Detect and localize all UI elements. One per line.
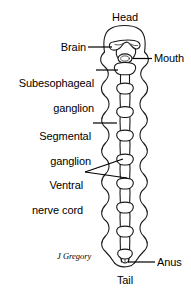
label-ventral-line1: Ventral <box>49 179 83 191</box>
label-segmental-line2: ganglion <box>50 155 91 167</box>
segmental-ganglion <box>117 130 134 141</box>
circumesophageal-connective-right <box>133 49 136 58</box>
label-ventral-nerve-cord: Ventral nerve cord <box>2 166 83 229</box>
label-subesophageal-line1: Subesophageal <box>19 77 94 89</box>
label-head: Head <box>95 11 155 24</box>
anatomy-diagram: Head Brain Mouth Subesophageal ganglion … <box>0 0 191 300</box>
label-subesophageal-line2: ganglion <box>53 102 94 114</box>
body-right-margin <box>135 52 149 263</box>
label-mouth: Mouth <box>154 52 191 65</box>
artist-signature: J Gregory <box>57 251 91 261</box>
segmental-ganglion <box>117 202 134 213</box>
terminal-ganglion <box>118 249 133 259</box>
subesophageal-ganglion <box>114 63 135 75</box>
label-anus: Anus <box>157 256 191 269</box>
segmental-ganglion <box>117 83 134 94</box>
mouth-opening <box>118 54 132 63</box>
segmental-ganglion <box>117 226 134 237</box>
tail-outline <box>115 263 135 267</box>
label-brain: Brain <box>28 41 86 54</box>
body-left-margin <box>101 52 115 263</box>
label-segmental-line1: Segmental <box>39 130 91 142</box>
label-ventral-line2: nerve cord <box>32 204 83 216</box>
segmental-ganglion <box>117 154 134 165</box>
label-tail: Tail <box>95 274 155 287</box>
segmental-ganglion <box>117 107 134 118</box>
segmental-ganglion <box>117 178 134 189</box>
